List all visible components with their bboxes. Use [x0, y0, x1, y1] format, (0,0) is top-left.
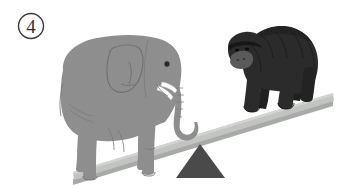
balance-scale-illustration: 4: [0, 0, 353, 188]
gorilla-nostril-left: [237, 59, 240, 61]
elephant-rear-leg: [83, 122, 98, 180]
gorilla-eye-right: [245, 47, 249, 50]
elephant-eye: [164, 61, 169, 67]
panel-label-number: 4: [26, 16, 36, 37]
gorilla-eye-left: [235, 48, 239, 51]
gorilla-nostril-right: [243, 58, 246, 60]
figure-panel: 4: [0, 0, 353, 188]
elephant-front-leg: [142, 118, 156, 175]
